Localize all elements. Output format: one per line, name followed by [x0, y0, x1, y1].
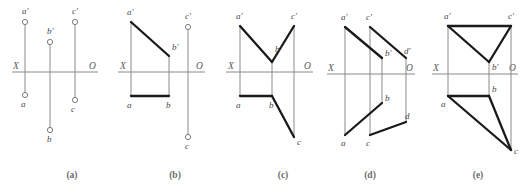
axis-label-x-d: X	[327, 63, 335, 73]
point-label-b-c: b	[269, 100, 274, 110]
point-label-c-prime-c: c'	[291, 11, 298, 21]
point-marker-a-a	[22, 92, 27, 97]
projection-figure-canvas: XOa'b'c'acbXOa'b'c'abcXOa'b'c'abcXOa'c'b…	[0, 0, 529, 196]
figure-root: XOa'b'c'acbXOa'b'c'abcXOa'b'c'abcXOa'c'b…	[0, 0, 529, 196]
point-label-c-prime-a: c'	[72, 6, 79, 16]
panel-d: XOa'c'b'd'bdac	[327, 12, 415, 148]
axis-label-x-c: X	[227, 61, 235, 71]
point-label-b-b: b	[166, 100, 171, 110]
axis-label-x-b: X	[119, 61, 127, 71]
point-label-b-prime-c: b'	[275, 44, 283, 54]
point-marker-c-b	[185, 134, 190, 139]
seg-ap-bp-e	[448, 26, 489, 62]
point-marker-b-a	[47, 127, 52, 132]
caption-c: (c)	[278, 170, 289, 181]
point-label-c-prime-e: c'	[508, 11, 515, 21]
axis-label-o-b: O	[196, 61, 203, 71]
point-label-a-prime-c: a'	[236, 11, 244, 21]
caption-d: (d)	[364, 170, 376, 181]
point-marker-c-prime-a	[72, 19, 77, 24]
axis-label-o-c: O	[304, 61, 311, 71]
seg-ap-bp-c	[240, 26, 272, 62]
point-label-c-b: c	[185, 141, 189, 151]
point-label-a-prime-d: a'	[341, 12, 349, 22]
point-label-b-prime-e: b'	[492, 62, 500, 72]
axis-label-o-d: O	[406, 63, 413, 73]
point-label-c-prime-b: c'	[185, 11, 192, 21]
point-marker-c-prime-b	[185, 24, 190, 29]
point-label-a-prime-e: a'	[444, 11, 452, 21]
point-label-a-c: a	[236, 100, 241, 110]
point-marker-a-prime-a	[22, 19, 27, 24]
point-label-c-prime-d: c'	[366, 12, 373, 22]
point-label-a-e: a	[441, 99, 446, 109]
point-label-a-prime-a: a'	[22, 6, 30, 16]
panel-e: XOa'c'b'abc	[432, 11, 518, 156]
caption-e: (e)	[473, 170, 484, 181]
point-label-b-prime-d: b'	[385, 48, 393, 58]
axis-label-o-a: O	[89, 61, 96, 71]
point-label-d-prime-d: d'	[404, 46, 412, 56]
point-label-b-prime-a: b'	[47, 26, 55, 36]
point-label-c-e: c	[514, 146, 518, 156]
point-label-d-d: d	[405, 111, 410, 121]
seg-a-c-e	[448, 96, 511, 150]
point-marker-c-a	[72, 97, 77, 102]
point-label-b-prime-b: b'	[172, 42, 180, 52]
point-label-c-c: c	[297, 137, 301, 147]
point-label-a-b: a	[127, 100, 132, 110]
axis-label-o-e: O	[509, 63, 516, 73]
panel-a: XOa'b'c'acb	[12, 6, 98, 144]
caption-a: (a)	[66, 170, 77, 181]
point-label-a-d: a	[341, 138, 346, 148]
axis-label-x-a: X	[12, 61, 20, 71]
point-label-b-d: b	[385, 93, 390, 103]
caption-b: (b)	[169, 170, 181, 181]
point-label-c-d: c	[366, 138, 370, 148]
seg-c-d-d	[370, 122, 406, 135]
point-label-a-a: a	[21, 99, 26, 109]
point-label-b-e: b	[492, 84, 497, 94]
point-label-b-a: b	[47, 134, 52, 144]
seg-b-c-c	[272, 96, 294, 137]
axis-label-x-e: X	[432, 63, 440, 73]
point-label-c-a: c	[71, 104, 75, 114]
point-label-a-prime-b: a'	[127, 7, 135, 17]
seg-cp-bp-e	[489, 26, 511, 62]
panel-c: XOa'b'c'abc	[226, 11, 313, 147]
seg-ap-bp-b	[131, 22, 169, 56]
seg-a-b-d	[345, 103, 382, 135]
point-marker-b-prime-a	[47, 39, 52, 44]
panel-b: XOa'b'c'abc	[118, 7, 205, 151]
